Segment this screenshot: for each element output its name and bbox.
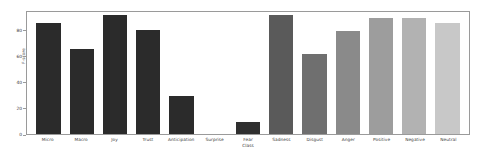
x-axis-tick-label-line: Trust (131, 137, 164, 143)
x-axis-tick-label: Anticipation (165, 137, 198, 159)
x-axis-tick-label-line: Positive (365, 137, 398, 143)
bar[interactable] (336, 31, 360, 134)
y-axis-tick: 0 (0, 131, 26, 139)
bar[interactable] (70, 49, 94, 134)
bar-slot (98, 12, 131, 134)
y-axis-tick-label: 20 (16, 105, 22, 113)
bar-slot (132, 12, 165, 134)
x-axis-tick-label: Neutral (432, 137, 465, 159)
y-axis-tick: 60 (0, 53, 26, 61)
x-axis-tick-label: Positive (365, 137, 398, 159)
x-axis-tick-label: Negative (398, 137, 431, 159)
bar-slot (265, 12, 298, 134)
x-axis-tick-label: Joy (98, 137, 131, 159)
bar[interactable] (369, 18, 393, 134)
bar[interactable] (302, 54, 326, 134)
x-axis-tick-label: Surprise (198, 137, 231, 159)
bar-slot (298, 12, 331, 134)
x-axis-tick-label-line: Sadness (265, 137, 298, 143)
bar[interactable] (36, 23, 60, 134)
x-axis-tick-label-line: Anticipation (165, 137, 198, 143)
bar-slot (431, 12, 464, 134)
bar-slot (65, 12, 98, 134)
x-axis-tick-label-line: Surprise (198, 137, 231, 143)
x-axis-tick-label: Anger (332, 137, 365, 159)
bar[interactable] (103, 15, 127, 134)
x-axis-tick-label-line: Class (231, 143, 264, 149)
x-axis-tick-label-line: Disgust (298, 137, 331, 143)
bar[interactable] (136, 30, 160, 134)
y-axis-tick-label: 60 (16, 53, 22, 61)
x-axis-tick-labels: MicroMacroJoyTrustAnticipationSurpriseFe… (26, 137, 470, 159)
bar[interactable] (236, 122, 260, 134)
x-axis-tick-label-line: Micro (31, 137, 64, 143)
bar-slot (198, 12, 231, 134)
bar-slot (331, 12, 364, 134)
bar[interactable] (402, 18, 426, 134)
bar-chart-figure: F-score 020406080 MicroMacroJoyTrustAnti… (0, 0, 484, 160)
y-axis-tick-label: 0 (19, 131, 22, 139)
bar[interactable] (269, 15, 293, 134)
bar-slot (364, 12, 397, 134)
y-axis-tick: 40 (0, 79, 26, 87)
bar-slot (398, 12, 431, 134)
x-axis-tick-label-line: Macro (64, 137, 97, 143)
y-axis-ticks: 020406080 (0, 11, 26, 135)
x-axis-tick-label: Disgust (298, 137, 331, 159)
bar-series (27, 12, 469, 134)
x-axis-tick-label: Macro (64, 137, 97, 159)
y-axis-tick: 80 (0, 27, 26, 35)
x-axis-tick-label-line: Joy (98, 137, 131, 143)
bar-slot (231, 12, 264, 134)
x-axis-tick-label: Trust (131, 137, 164, 159)
bar[interactable] (169, 96, 193, 134)
y-axis-tick: 20 (0, 105, 26, 113)
x-axis-tick-label: FearClass (231, 137, 264, 159)
x-axis-tick-label-line: Neutral (432, 137, 465, 143)
y-axis-tick-label: 80 (16, 27, 22, 35)
bar[interactable] (435, 23, 459, 134)
bar-slot (32, 12, 65, 134)
x-axis-tick-label: Sadness (265, 137, 298, 159)
x-axis-tick-label-line: Anger (332, 137, 365, 143)
x-axis-tick-label: Micro (31, 137, 64, 159)
x-axis-tick-label-line: Negative (398, 137, 431, 143)
bar-slot (165, 12, 198, 134)
plot-area (26, 11, 470, 135)
y-axis-tick-label: 40 (16, 79, 22, 87)
